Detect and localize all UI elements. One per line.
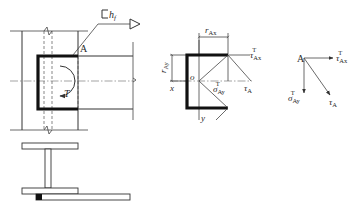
sigma-ay-label: σAyT xyxy=(213,80,226,95)
lower-tail-line xyxy=(216,108,228,120)
elevation-view: T A hf xyxy=(10,9,140,134)
radius-line xyxy=(199,55,228,81)
origin-label: o xyxy=(190,72,195,82)
connection-plate xyxy=(36,194,130,200)
beam-break-symbol xyxy=(133,78,136,82)
fillet-weld-symbol-icon xyxy=(102,10,108,18)
tau-a-arrow-icon xyxy=(304,58,330,95)
x-axis-label: x xyxy=(169,83,174,93)
torque-label: T xyxy=(64,88,71,99)
tau-ax-label: τAxT xyxy=(250,46,262,61)
weld-size-label: hf xyxy=(109,9,117,22)
vector-sigma-ay-label: σAyT xyxy=(288,89,301,104)
tau-a-label: τA xyxy=(244,83,252,94)
plan-view xyxy=(22,143,130,200)
tau-a-line xyxy=(228,55,251,81)
vector-tau-a-label: τA xyxy=(329,97,337,108)
vector-tau-ax-label: τAxT xyxy=(336,49,348,64)
weld-section xyxy=(36,194,42,200)
r-ay-label: rAy xyxy=(158,61,169,73)
top-flange xyxy=(22,143,78,149)
stress-vector-view: A τAxT σAyT τA xyxy=(288,49,348,108)
bottom-flange xyxy=(22,188,78,194)
web xyxy=(45,149,51,188)
weld-stress-diagram: T A hf rAx rAy x y o xyxy=(0,0,359,212)
y-axis-label: y xyxy=(200,113,205,123)
stress-geometry-view: rAx rAy x y o τAxT τA σAyT xyxy=(158,25,262,123)
weld-tail-icon xyxy=(130,19,140,29)
r-ax-label: rAx xyxy=(205,25,217,36)
